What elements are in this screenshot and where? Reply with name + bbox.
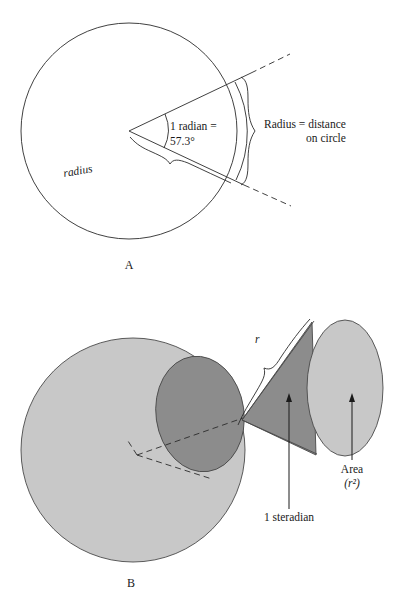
figure-container: radius 1 radian = 57.3° Radius = distanc… — [0, 0, 402, 603]
brace-label-line1: Radius = distance — [264, 118, 346, 130]
radian-label-line2: 57.3° — [170, 135, 195, 147]
r-label: r — [255, 333, 260, 345]
area-label: Area — [341, 463, 363, 475]
panel-b-label: B — [127, 576, 135, 590]
area-disc — [307, 320, 383, 456]
area-value: (r²) — [344, 477, 360, 490]
brace-label-line2: on circle — [306, 132, 346, 144]
panel-a-label: A — [125, 258, 134, 272]
radian-steradian-figure: radius 1 radian = 57.3° Radius = distanc… — [0, 0, 402, 603]
steradian-label: 1 steradian — [264, 511, 314, 523]
radian-label-line1: 1 radian = — [170, 120, 217, 132]
